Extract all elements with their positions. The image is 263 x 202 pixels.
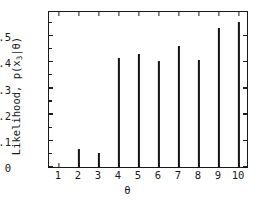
x-tick-label: 6	[155, 170, 161, 181]
x-tick-label: 5	[135, 170, 141, 181]
bar	[98, 153, 100, 167]
bar	[238, 22, 240, 167]
plot-area	[48, 11, 248, 168]
likelihood-bar-chart-figure: 00.10.20.30.40.5 12345678910 θ Likelihoo…	[0, 0, 263, 202]
x-tick-label: 3	[95, 170, 101, 181]
bar	[178, 46, 180, 167]
bar	[158, 61, 160, 167]
bar	[218, 28, 220, 167]
bar	[198, 60, 200, 167]
x-tick-label: 8	[195, 170, 201, 181]
bar	[78, 149, 80, 167]
y-axis-title-suffix: |θ)	[10, 37, 22, 56]
x-tick-label: 4	[115, 170, 121, 181]
y-axis-title-subscript: 3	[15, 56, 24, 61]
bar	[138, 54, 140, 167]
x-tick-label: 1	[55, 170, 61, 181]
y-axis-title-prefix: Likelihood, p(x	[10, 60, 22, 155]
y-axis-title: Likelihood, p(x3|θ)	[10, 9, 22, 184]
bar	[118, 58, 120, 167]
bar-series	[49, 12, 247, 167]
x-tick-label: 2	[75, 170, 81, 181]
x-tick-label: 9	[215, 170, 221, 181]
x-tick-label: 7	[175, 170, 181, 181]
x-tick-label: 10	[232, 170, 245, 181]
x-axis-title: θ	[0, 184, 263, 196]
x-axis-title-text: θ	[124, 184, 130, 196]
